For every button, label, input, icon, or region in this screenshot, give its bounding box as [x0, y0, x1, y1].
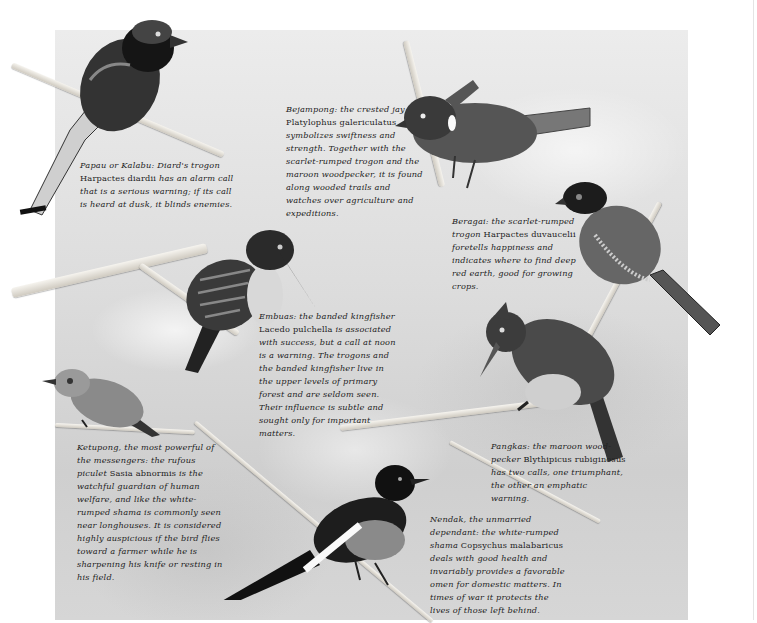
caption-beragai: Beragai: the scarlet-rumped trogon Harpa…	[452, 215, 580, 293]
caption-ketupong: Ketupong, the most powerful of the messe…	[77, 441, 227, 584]
caption-embuas: Embuas: the banded kingfisher Lacedo pul…	[259, 310, 399, 440]
scientific-name: Platylophus galericulatus	[286, 117, 396, 127]
caption-papau: Papau or Kalabu: Diard's trogon Harpacte…	[80, 159, 240, 211]
scientific-name: Lacedo pulchella	[259, 324, 333, 334]
caption-body: foretells happiness and indicates where …	[452, 242, 576, 291]
caption-body: is the watchful guardian of human welfar…	[77, 468, 223, 582]
rufous-piculet-illustration	[42, 365, 162, 440]
caption-lead: Papau or Kalabu: Diard's trogon	[80, 160, 220, 170]
scientific-name: Harpactes duvaucelii	[484, 229, 576, 239]
page-edge-rule	[753, 0, 754, 620]
caption-body: has two calls, one triumphant, the other…	[491, 467, 623, 503]
caption-body: is associated with success, but a call a…	[259, 324, 396, 438]
white-rumped-shama-illustration	[210, 455, 430, 600]
scientific-name: Copsychus malabaricus	[461, 540, 563, 550]
caption-bejampong: Bejampong: the crested jay Platylophus g…	[286, 103, 426, 220]
caption-lead: Bejampong: the crested jay	[286, 104, 405, 114]
caption-body: symbolizes swiftness and strength. Toget…	[286, 130, 423, 218]
scientific-name: Harpactes diardii	[80, 173, 156, 183]
scientific-name: Blythipicus rubiginosus	[523, 454, 625, 464]
caption-lead: Embuas: the banded kingfisher	[259, 311, 395, 321]
caption-pangkas: Pangkas: the maroon wood-pecker Blythipi…	[491, 440, 626, 505]
caption-body: deals with good health and invariably pr…	[430, 553, 565, 615]
caption-nendak: Nendak, the unmarried dependant: the whi…	[430, 513, 570, 617]
scientific-name: Sasia abnormis	[110, 468, 176, 478]
